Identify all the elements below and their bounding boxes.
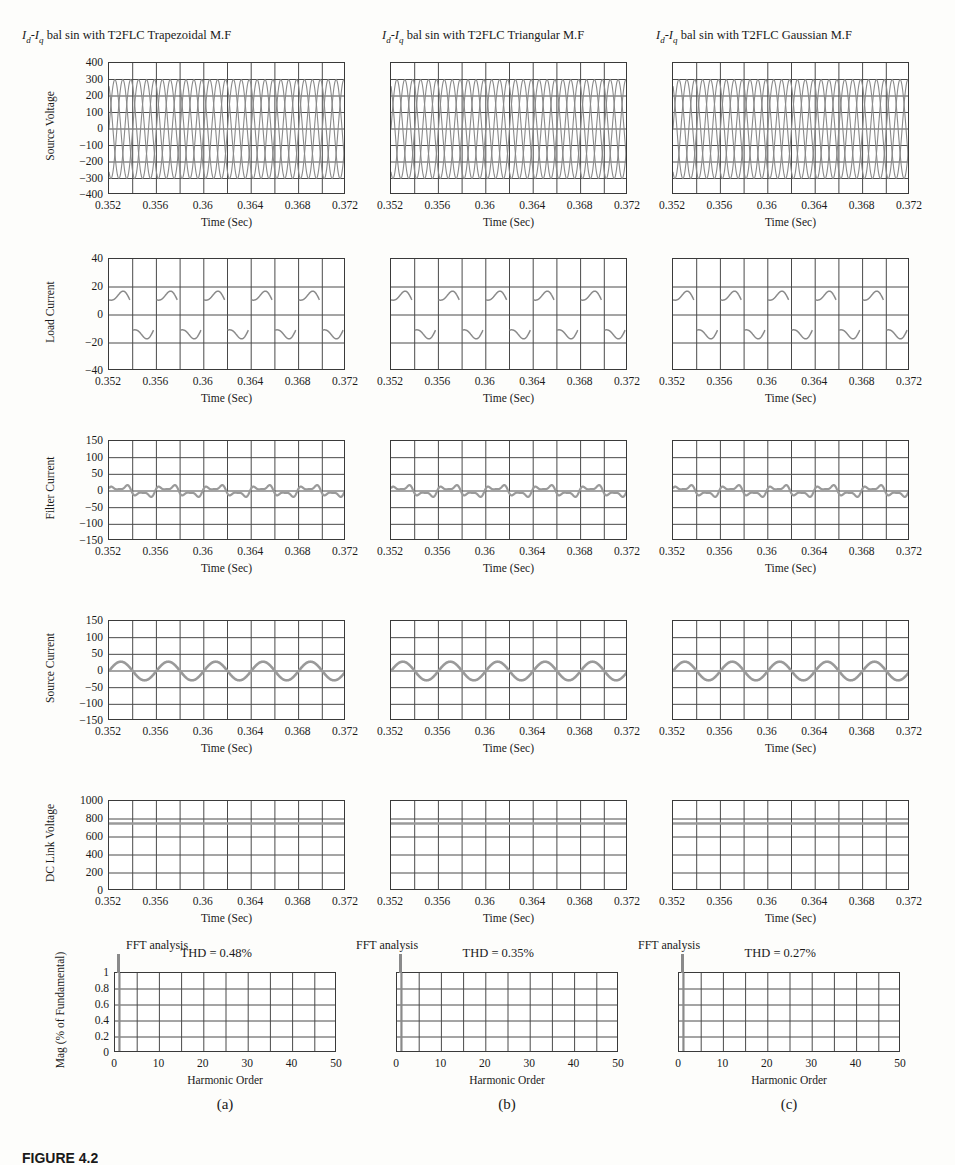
xtick-dc-link-voltage-a: 0.352: [95, 895, 121, 907]
ytick-filter-current-a: −100: [60, 517, 103, 529]
xtick-dc-link-voltage-a: 0.372: [332, 895, 358, 907]
xtick-filter-current-b: 0.364: [519, 545, 545, 557]
xtick-load-current-c: 0.372: [896, 375, 922, 387]
ytick-source-voltage-a: −100: [60, 139, 103, 151]
xtick-fft-analysis-b: 10: [435, 1057, 447, 1069]
xtick-filter-current-b: 0.372: [614, 545, 640, 557]
xtick-filter-current-a: 0.36: [193, 545, 213, 557]
xtick-source-voltage-a: 0.36: [193, 199, 213, 211]
xtick-source-current-b: 0.364: [519, 725, 545, 737]
ytick-fft-analysis-a: 0.4: [66, 1014, 109, 1026]
xtick-fft-analysis-a: 40: [286, 1057, 298, 1069]
fft-fundamental-spike-c: [681, 954, 683, 973]
xtick-load-current-a: 0.36: [193, 375, 213, 387]
ytick-source-current-a: 50: [60, 647, 103, 659]
thd-value-b: THD = 0.35%: [463, 946, 534, 961]
xtick-dc-link-voltage-b: 0.352: [377, 895, 403, 907]
xtick-filter-current-c: 0.36: [757, 545, 777, 557]
xtick-filter-current-a: 0.364: [237, 545, 263, 557]
plot-load-current-c: [672, 258, 909, 370]
xtick-dc-link-voltage-c: 0.364: [801, 895, 827, 907]
xlabel-load-current-b: Time (Sec): [483, 392, 534, 404]
xtick-source-current-c: 0.352: [659, 725, 685, 737]
xtick-load-current-c: 0.368: [849, 375, 875, 387]
xlabel-source-voltage-c: Time (Sec): [765, 216, 816, 228]
xtick-source-voltage-c: 0.36: [757, 199, 777, 211]
xtick-dc-link-voltage-a: 0.364: [237, 895, 263, 907]
ylabel-dc-link-voltage-a: DC Link Voltage: [44, 743, 56, 943]
ytick-source-voltage-a: 100: [60, 106, 103, 118]
ylabel-source-current-a: Source Current: [44, 563, 56, 773]
xtick-filter-current-b: 0.36: [475, 545, 495, 557]
xtick-load-current-b: 0.36: [475, 375, 495, 387]
xtick-fft-analysis-a: 30: [241, 1057, 253, 1069]
xtick-load-current-c: 0.352: [659, 375, 685, 387]
xtick-fft-analysis-b: 20: [479, 1057, 491, 1069]
xtick-source-current-b: 0.352: [377, 725, 403, 737]
figure-caption: FIGURE 4.2: [22, 1150, 98, 1165]
xtick-filter-current-b: 0.368: [567, 545, 593, 557]
xtick-source-voltage-c: 0.356: [706, 199, 732, 211]
xtick-source-voltage-a: 0.364: [237, 199, 263, 211]
ytick-filter-current-a: 150: [60, 434, 103, 446]
column-title-c: Id-Iq bal sin with T2FLC Gaussian M.F: [656, 28, 955, 47]
xtick-fft-analysis-a: 0: [111, 1057, 117, 1069]
ytick-load-current-a: 0: [60, 308, 103, 320]
xtick-load-current-a: 0.356: [142, 375, 168, 387]
xtick-source-voltage-b: 0.352: [377, 199, 403, 211]
xtick-load-current-a: 0.372: [332, 375, 358, 387]
xtick-source-voltage-a: 0.352: [95, 199, 121, 211]
fft-analysis-note-a: FFT analysis: [126, 938, 188, 953]
xtick-fft-analysis-c: 40: [850, 1057, 862, 1069]
xtick-filter-current-c: 0.364: [801, 545, 827, 557]
xtick-dc-link-voltage-c: 0.356: [706, 895, 732, 907]
xtick-source-current-c: 0.364: [801, 725, 827, 737]
thd-value-c: THD = 0.27%: [745, 946, 816, 961]
xtick-source-voltage-c: 0.364: [801, 199, 827, 211]
plot-filter-current-a: [108, 440, 345, 540]
ytick-load-current-a: −20: [60, 336, 103, 348]
plot-fft-analysis-b: [396, 972, 618, 1052]
xtick-filter-current-a: 0.368: [285, 545, 311, 557]
xtick-source-voltage-b: 0.36: [475, 199, 495, 211]
xtick-fft-analysis-b: 40: [568, 1057, 580, 1069]
ytick-fft-analysis-a: 0.8: [66, 982, 109, 994]
xlabel-filter-current-b: Time (Sec): [483, 562, 534, 574]
ytick-source-current-a: −50: [60, 681, 103, 693]
xtick-fft-analysis-b: 30: [523, 1057, 535, 1069]
xtick-source-current-a: 0.36: [193, 725, 213, 737]
ytick-filter-current-a: 50: [60, 467, 103, 479]
plot-dc-link-voltage-a: [108, 800, 345, 890]
xlabel-fft-analysis-a: Harmonic Order: [187, 1074, 263, 1086]
xtick-source-current-a: 0.372: [332, 725, 358, 737]
xtick-dc-link-voltage-b: 0.364: [519, 895, 545, 907]
xtick-fft-analysis-c: 20: [761, 1057, 773, 1069]
ytick-fft-analysis-a: 0: [66, 1046, 109, 1058]
xtick-source-current-b: 0.368: [567, 725, 593, 737]
plot-dc-link-voltage-c: [672, 800, 909, 890]
ytick-dc-link-voltage-a: 600: [60, 830, 103, 842]
ytick-dc-link-voltage-a: 800: [60, 812, 103, 824]
xlabel-dc-link-voltage-c: Time (Sec): [765, 912, 816, 924]
xtick-fft-analysis-a: 20: [197, 1057, 209, 1069]
xtick-fft-analysis-b: 50: [612, 1057, 624, 1069]
xtick-fft-analysis-c: 50: [894, 1057, 906, 1069]
fft-fundamental-spike-a: [117, 954, 119, 973]
ytick-source-voltage-a: 300: [60, 73, 103, 85]
xtick-source-voltage-b: 0.364: [519, 199, 545, 211]
xtick-dc-link-voltage-a: 0.356: [142, 895, 168, 907]
xtick-dc-link-voltage-c: 0.368: [849, 895, 875, 907]
fft-analysis-note-c: FFT analysis: [638, 938, 700, 953]
xtick-load-current-b: 0.364: [519, 375, 545, 387]
plot-fft-analysis-a: [114, 972, 336, 1052]
ytick-source-voltage-a: 0: [60, 122, 103, 134]
xtick-source-voltage-c: 0.368: [849, 199, 875, 211]
xlabel-dc-link-voltage-b: Time (Sec): [483, 912, 534, 924]
xtick-dc-link-voltage-a: 0.36: [193, 895, 213, 907]
xtick-filter-current-b: 0.352: [377, 545, 403, 557]
xtick-dc-link-voltage-b: 0.372: [614, 895, 640, 907]
xtick-filter-current-c: 0.368: [849, 545, 875, 557]
subfigure-label-c: (c): [781, 1096, 798, 1113]
xtick-dc-link-voltage-c: 0.352: [659, 895, 685, 907]
ytick-load-current-a: 40: [60, 252, 103, 264]
